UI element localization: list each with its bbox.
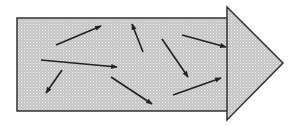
block-arrow-diagram — [0, 0, 298, 126]
arrow-head — [227, 7, 283, 120]
arrow-body — [17, 18, 228, 111]
